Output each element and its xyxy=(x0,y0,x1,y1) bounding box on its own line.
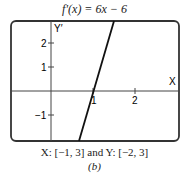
x-tick-label-1: 1 xyxy=(91,95,97,106)
derivative-line xyxy=(79,21,114,141)
y-tick-label-1: 1 xyxy=(41,62,47,73)
figure-subcaption: (b) xyxy=(0,160,189,172)
x-axis-label: X xyxy=(169,76,176,87)
x-tick-label-2: 2 xyxy=(132,95,138,106)
window-frame xyxy=(11,21,179,141)
y-tick-label-minus1: −1 xyxy=(35,110,47,121)
y-axis-label: Y′ xyxy=(54,23,63,34)
y-tick-label-2: 2 xyxy=(41,38,47,49)
window-caption: X: [−1, 3] and Y: [−2, 3] xyxy=(0,146,189,158)
